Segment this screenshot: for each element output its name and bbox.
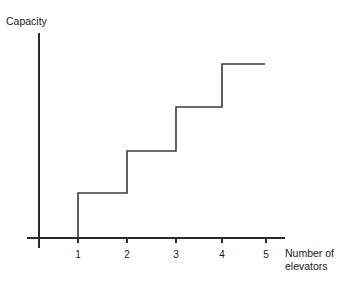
x-tick-label-2: 2 [124,249,130,260]
x-tick-label-4: 4 [219,249,225,260]
y-axis-title: Capacity [6,15,48,27]
x-tick-label-5: 5 [263,249,269,260]
x-axis-title-line2: elevators [285,260,328,272]
step-chart-figure: Capacity 1 2 3 4 5 Number of elevators [0,0,356,290]
step-function-series [78,64,265,238]
x-tick-label-1: 1 [75,249,81,260]
x-tick-label-3: 3 [173,249,179,260]
chart-canvas: Capacity 1 2 3 4 5 Number of elevators [0,0,356,290]
x-axis-title-line1: Number of [285,247,334,259]
